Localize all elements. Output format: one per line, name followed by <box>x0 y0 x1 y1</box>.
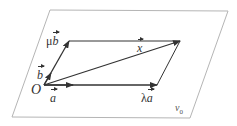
vector-x-text: x <box>137 42 142 54</box>
vector-a-text: a <box>147 92 153 104</box>
plane-subscript: 0 <box>179 108 183 116</box>
label-b: b <box>37 69 43 81</box>
label-x: x <box>137 42 142 54</box>
label-mu-b: μb <box>46 35 58 47</box>
diagram-canvas <box>0 0 237 126</box>
label-plane: v0 <box>175 103 183 116</box>
label-lambda-a: λa <box>141 92 153 104</box>
vector-b-text: b <box>37 69 43 81</box>
label-a: a <box>50 92 56 104</box>
vector-diagram: O a λa b μb x v0 <box>0 0 237 126</box>
label-origin: O <box>31 83 41 97</box>
vector-x <box>44 41 180 85</box>
origin-text: O <box>31 82 41 97</box>
vector-a-text: a <box>50 92 56 104</box>
vector-b-text: b <box>52 35 58 47</box>
